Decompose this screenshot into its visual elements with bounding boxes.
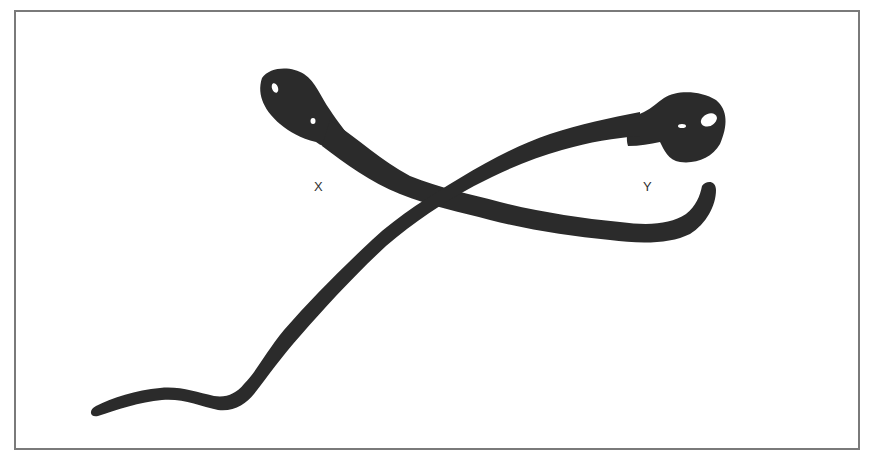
figure-illustration	[0, 0, 881, 453]
shape-x	[260, 68, 716, 242]
shape-y	[91, 92, 726, 416]
label-x: X	[314, 180, 323, 193]
label-y: Y	[643, 180, 652, 193]
shape-y-head	[627, 92, 726, 162]
